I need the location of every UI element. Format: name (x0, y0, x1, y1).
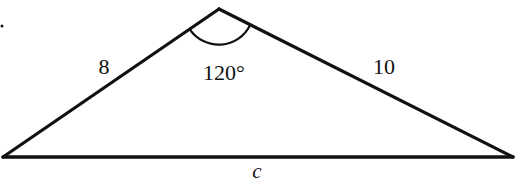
left-side-label: 8 (99, 54, 110, 79)
base-label: c (252, 159, 262, 183)
stray-dot (1, 25, 4, 28)
angle-arc (190, 25, 251, 45)
right-side-label: 10 (373, 54, 395, 79)
left-side (3, 9, 219, 157)
right-side (219, 9, 513, 157)
triangle-diagram: 8 120° 10 c (0, 0, 523, 185)
angle-label: 120° (203, 60, 245, 85)
